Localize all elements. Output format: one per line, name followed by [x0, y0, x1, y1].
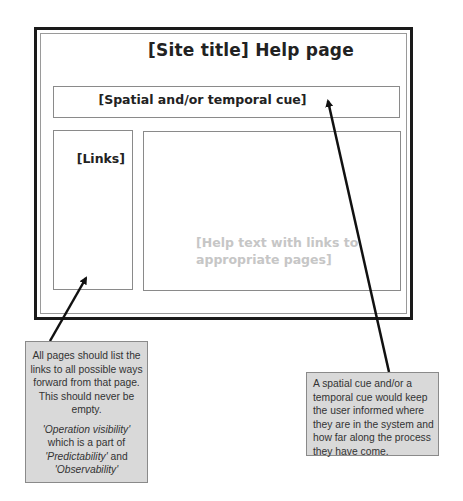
cue-annotation-callout: A spatial cue and/or a temporal cue woul…: [306, 372, 439, 456]
term-operation-visibility: 'Operation visibility': [43, 424, 130, 435]
term-predictability: 'Predictability': [45, 451, 107, 462]
links-callout-text: All pages should list the links to all p…: [29, 349, 144, 417]
connector-and: and: [108, 451, 128, 462]
links-annotation-callout: All pages should list the links to all p…: [25, 341, 148, 483]
cue-arrow: [328, 101, 389, 372]
term-observability: 'Observability': [55, 464, 118, 475]
connector-text: which is a part of: [48, 437, 125, 448]
links-callout-principle: 'Operation visibility' which is a part o…: [29, 423, 144, 477]
links-arrow: [50, 278, 86, 341]
cue-callout-text: A spatial cue and/or a temporal cue woul…: [313, 378, 434, 457]
